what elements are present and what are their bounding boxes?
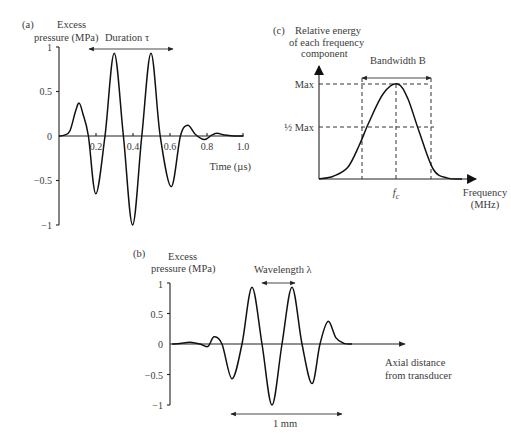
halfmax-label: ½ Max: [284, 122, 314, 133]
panel-c-tag: (c): [273, 25, 285, 37]
panel-c-xlabel-line2: (MHz): [471, 199, 500, 211]
panel-c-ylabel-line1: Relative energy: [295, 25, 362, 36]
panel-a-ytick-0: 1: [47, 42, 52, 53]
panel-a-ytick-3: −0.5: [34, 175, 52, 186]
panel-b-ytick-0: 1: [158, 279, 163, 290]
panel-b-ytick-2: 0: [158, 339, 163, 350]
panel-a-ytick-4: −1: [41, 220, 52, 231]
panel-a: (a) Excess pressure (MPa) Duration τ 0.2…: [22, 19, 252, 231]
panel-b-xlabel-line2: from transducer: [385, 370, 452, 381]
panel-c-ylabel-line3: component: [301, 48, 348, 59]
panel-a-ylabel-line1: Excess: [57, 19, 86, 30]
panel-b-pulse-curve: [172, 287, 352, 405]
panel-b-ytick-1: 0.5: [151, 309, 164, 320]
panel-a-duration-label: Duration τ: [105, 32, 149, 43]
panel-b-tag: (b): [133, 248, 146, 260]
panel-c-spectrum-curve: [319, 84, 462, 179]
panel-b-xlabel-line1: Axial distance: [385, 357, 446, 368]
panel-b: (b) Excess pressure (MPa) Wavelength λ 1…: [133, 248, 452, 429]
panel-a-ytick-2: 0: [47, 131, 52, 142]
panel-a-ylabel-line2: pressure (MPa): [34, 32, 99, 44]
panel-c-xlabel-line1: Frequency: [463, 187, 508, 198]
panel-a-tag: (a): [22, 19, 34, 31]
panel-a-xtick-0: 0.2: [90, 141, 103, 152]
figure: (a) Excess pressure (MPa) Duration τ 0.2…: [0, 0, 511, 443]
panel-c-ylabel-line2: of each frequency: [289, 37, 365, 48]
panel-a-ytick-1: 0.5: [40, 86, 53, 97]
panel-a-xtick-3: 0.8: [201, 141, 214, 152]
scale-1mm-label: 1 mm: [273, 418, 297, 429]
panel-a-xtick-1: 0.4: [127, 141, 140, 152]
panel-a-xtick-4: 1.0: [237, 141, 250, 152]
panel-a-pulse-curve: [59, 53, 243, 225]
panel-b-ytick-3: −0.5: [145, 370, 163, 381]
panel-b-ytick-4: −1: [152, 400, 163, 411]
panel-b-ylabel-line1: Excess: [168, 251, 197, 262]
panel-a-xlabel: Time (µs): [209, 161, 251, 173]
panel-a-xtick-2: 0.6: [164, 141, 177, 152]
fc-label: fc: [393, 187, 400, 201]
panel-c: (c) Relative energy of each frequency co…: [273, 25, 508, 211]
panel-c-bandwidth-label: Bandwidth B: [370, 55, 426, 66]
panel-b-wavelength-label: Wavelength λ: [254, 264, 313, 275]
panel-b-ylabel-line2: pressure (MPa): [151, 263, 216, 275]
max-label: Max: [295, 79, 315, 90]
